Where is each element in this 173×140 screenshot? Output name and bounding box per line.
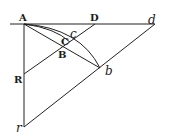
label-c: c xyxy=(70,27,77,41)
label-b: b xyxy=(105,64,113,78)
label-d: d xyxy=(148,13,156,27)
label-A: A xyxy=(18,12,27,23)
label-B: B xyxy=(58,49,66,60)
label-R: R xyxy=(14,74,23,85)
label-D: D xyxy=(90,12,99,23)
geometry-diagram: A D d C c B b R r xyxy=(0,0,173,140)
line-r-d xyxy=(24,24,155,127)
label-r: r xyxy=(16,121,23,135)
label-C: C xyxy=(61,36,69,47)
